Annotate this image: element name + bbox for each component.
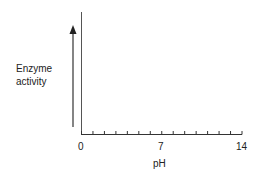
- y-axis-arrow-head-icon: [70, 25, 77, 34]
- x-axis-label: pH: [153, 158, 166, 170]
- x-tick-label-14: 14: [236, 141, 247, 153]
- x-axis-ticks: [82, 131, 243, 135]
- x-tick-label-7: 7: [158, 141, 164, 153]
- y-axis-label-line-1: Enzyme: [16, 62, 52, 75]
- y-axis-label-line-2: activity: [16, 75, 52, 88]
- x-tick-label-0: 0: [78, 141, 84, 153]
- y-axis-label: Enzyme activity: [16, 62, 52, 88]
